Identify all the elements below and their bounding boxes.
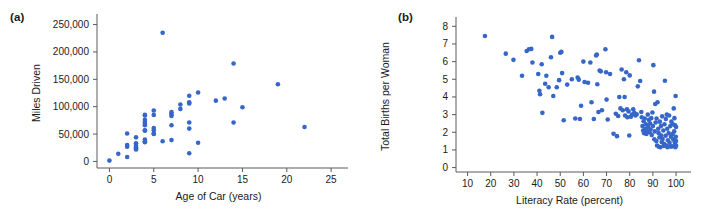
data-point <box>187 93 192 98</box>
data-point <box>657 144 662 149</box>
data-point <box>551 94 556 99</box>
data-point <box>636 84 641 89</box>
data-point <box>169 114 174 119</box>
data-point <box>134 135 139 140</box>
data-point <box>143 128 148 133</box>
data-point <box>634 112 639 117</box>
data-point <box>151 113 156 118</box>
data-point <box>672 129 677 134</box>
data-point <box>543 81 548 86</box>
data-point <box>619 67 624 72</box>
data-point <box>578 117 583 122</box>
data-point <box>178 102 183 107</box>
panel-b: (b) 012345678102030405060708090100Litera… <box>361 0 722 215</box>
scatterplot-figure: (a) 050,000100,000150,000200,000250,0000… <box>0 0 723 215</box>
data-point <box>143 123 148 128</box>
data-point <box>538 92 543 97</box>
data-point <box>231 61 236 66</box>
data-point <box>637 58 642 63</box>
data-point <box>674 139 679 144</box>
data-point <box>603 47 608 52</box>
data-point <box>549 55 554 60</box>
x-tick-label: 25 <box>326 174 338 185</box>
data-point <box>638 79 643 84</box>
data-point <box>672 116 677 121</box>
data-point <box>674 143 679 148</box>
data-point <box>196 90 201 95</box>
x-tick-label: 100 <box>668 178 685 189</box>
data-point <box>650 110 655 115</box>
x-tick-label: 70 <box>601 178 613 189</box>
x-tick-label: 5 <box>151 174 157 185</box>
data-point <box>600 108 605 113</box>
data-point <box>661 144 666 149</box>
y-tick-label: 200,000 <box>53 46 90 57</box>
data-point <box>565 82 570 87</box>
data-point <box>662 122 667 127</box>
y-tick-label: 50,000 <box>58 129 89 140</box>
x-tick-label: 60 <box>578 178 590 189</box>
data-point <box>581 59 586 64</box>
x-tick-label: 90 <box>647 178 659 189</box>
data-point <box>276 82 281 87</box>
y-tick-label: 8 <box>442 21 448 32</box>
data-point <box>151 108 156 113</box>
data-point <box>539 62 544 67</box>
data-point <box>615 134 620 139</box>
data-point <box>573 116 578 121</box>
x-tick-label: 10 <box>462 178 474 189</box>
data-point <box>116 151 121 156</box>
data-point <box>143 140 148 145</box>
data-point <box>665 145 670 150</box>
x-axis-title: Literacy Rate (percent) <box>516 194 623 206</box>
data-point <box>664 117 669 122</box>
data-point <box>187 126 192 131</box>
data-point <box>627 73 632 78</box>
data-point <box>674 134 679 139</box>
data-point <box>576 77 581 82</box>
data-point <box>588 60 593 65</box>
data-point <box>530 60 535 65</box>
data-point <box>671 122 676 127</box>
data-point <box>520 73 525 78</box>
data-point <box>560 71 565 76</box>
data-point <box>125 131 130 136</box>
data-point <box>604 70 609 75</box>
data-point <box>620 108 625 113</box>
data-point <box>550 35 555 40</box>
data-point <box>160 139 165 144</box>
y-tick-label: 6 <box>442 56 448 67</box>
data-point <box>169 138 174 143</box>
data-point <box>616 114 621 119</box>
data-point <box>604 97 609 102</box>
y-tick-label: 3 <box>442 109 448 120</box>
y-tick-label: 250,000 <box>53 19 90 30</box>
data-point <box>125 155 130 160</box>
data-point <box>622 95 627 100</box>
data-point <box>586 81 591 86</box>
data-point <box>178 107 183 112</box>
data-point <box>661 128 666 133</box>
data-point <box>187 151 192 156</box>
data-point <box>561 118 566 123</box>
data-point <box>595 82 600 87</box>
y-tick-label: 0 <box>83 156 89 167</box>
data-point <box>660 114 665 119</box>
data-point <box>589 100 594 105</box>
data-point <box>187 120 192 125</box>
data-point <box>143 113 148 118</box>
x-tick-label: 30 <box>508 178 520 189</box>
y-axis-title: Miles Driven <box>30 64 42 122</box>
data-point <box>536 72 541 77</box>
data-point <box>627 133 632 138</box>
y-tick-label: 2 <box>442 127 448 138</box>
data-point <box>592 117 597 122</box>
data-point <box>655 100 660 105</box>
x-tick-label: 50 <box>555 178 567 189</box>
panel-a-plot: 050,000100,000150,000200,000250,00005101… <box>0 0 361 215</box>
data-point <box>639 110 644 115</box>
y-tick-label: 100,000 <box>53 101 90 112</box>
data-point <box>540 111 545 116</box>
x-tick-label: 0 <box>107 174 113 185</box>
y-tick-label: 1 <box>442 144 448 155</box>
